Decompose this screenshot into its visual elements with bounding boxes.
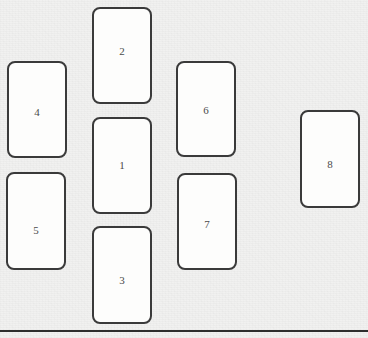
card-label: 1 [119,160,125,171]
card-1[interactable]: 1 [92,117,152,214]
card-label: 2 [119,46,125,57]
card-5[interactable]: 5 [6,172,66,270]
card-label: 6 [203,105,209,116]
card-label: 8 [327,159,333,170]
horizontal-rule [0,330,368,332]
card-7[interactable]: 7 [177,173,237,270]
card-2[interactable]: 2 [92,7,152,104]
card-label: 3 [119,275,125,286]
card-6[interactable]: 6 [176,61,236,157]
card-label: 5 [33,225,39,236]
card-4[interactable]: 4 [7,61,67,158]
card-layout-canvas: 21345678 [0,0,368,338]
card-3[interactable]: 3 [92,226,152,324]
card-label: 4 [34,107,40,118]
card-label: 7 [204,219,210,230]
card-8[interactable]: 8 [300,110,360,208]
